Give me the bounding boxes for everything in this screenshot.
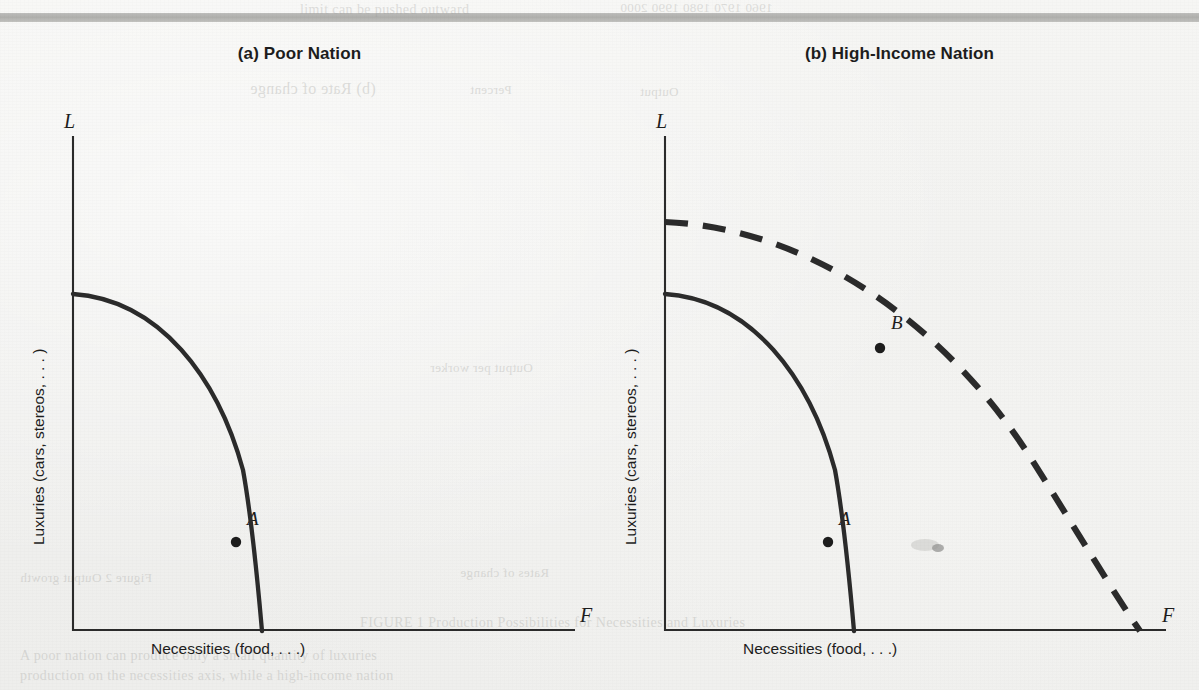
panel-poor-nation: (a) Poor Nation Luxuries (cars, stereos,… — [0, 0, 599, 690]
scan-smudge — [911, 539, 944, 552]
panel-b-plot — [600, 0, 1199, 690]
panel-high-income-nation: (b) High-Income Nation Luxuries (cars, s… — [600, 0, 1199, 690]
panel-b-point-a-marker — [823, 537, 833, 547]
panel-a-plot — [0, 0, 599, 690]
panel-b-point-b-marker — [875, 343, 885, 353]
scanned-page: limit can be pushed outward1960 1970 198… — [0, 0, 1199, 690]
panel-a-point-a-marker — [231, 537, 241, 547]
panel-b-expanded-ppf-curve — [665, 222, 1140, 631]
panel-b-ppf-curve — [665, 294, 854, 631]
panel-a-ppf-curve — [73, 294, 262, 631]
